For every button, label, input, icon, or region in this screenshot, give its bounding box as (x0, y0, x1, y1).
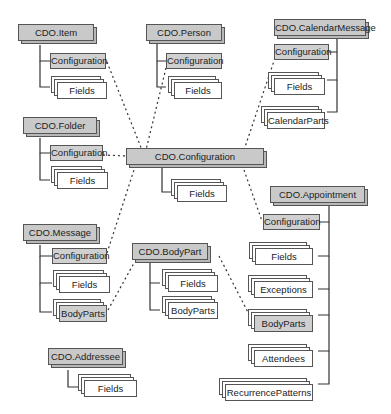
cdo-addressee-fields-collection[interactable]: Fields (84, 380, 137, 397)
cdo-calendarmessage-fields-collection[interactable]: Fields (274, 78, 325, 95)
cdo-folder-fields-collection[interactable]: Fields (57, 172, 108, 189)
cdo-message-fields-collection[interactable]: Fields (59, 276, 110, 293)
cdo-appointment-recurrencepatterns-collection[interactable]: RecurrencePatterns (225, 384, 313, 401)
cdo-person-configuration-interface[interactable]: Configuration (166, 53, 222, 69)
cdo-bodypart-bodyparts-collection[interactable]: BodyParts (168, 302, 218, 319)
cdo-message-configuration-interface[interactable]: Configuration (52, 248, 107, 264)
cdo-item-object[interactable]: CDO.Item (18, 24, 94, 41)
cdo-addressee-object[interactable]: CDO.Addressee (48, 348, 123, 365)
cdo-message-bodyparts-collection[interactable]: BodyParts (59, 305, 107, 322)
cdo-bodypart-object[interactable]: CDO.BodyPart (132, 243, 208, 260)
cdo-appointment-bodyparts-collection[interactable]: BodyParts (254, 315, 313, 332)
cdo-appointment-attendees-collection[interactable]: Attendees (254, 350, 313, 367)
cdo-configuration-fields-collection[interactable]: Fields (177, 185, 227, 202)
cdo-appointment-object[interactable]: CDO.Appointment (270, 186, 365, 203)
cdo-calendarmessage-calendarparts-collection[interactable]: CalendarParts (267, 112, 325, 129)
cdo-object-model-diagram: CDO.Item Configuration Fields CDO.Person… (0, 0, 391, 414)
cdo-folder-object[interactable]: CDO.Folder (23, 117, 97, 134)
cdo-calendarmessage-configuration-interface[interactable]: Configuration (274, 44, 329, 60)
cdo-appointment-exceptions-collection[interactable]: Exceptions (254, 281, 313, 298)
cdo-item-configuration-interface[interactable]: Configuration (50, 53, 106, 69)
cdo-bodypart-fields-collection[interactable]: Fields (168, 275, 218, 292)
cdo-message-object[interactable]: CDO.Message (23, 224, 97, 241)
cdo-item-fields-collection[interactable]: Fields (57, 82, 107, 99)
cdo-calendarmessage-object[interactable]: CDO.CalendarMessage (274, 19, 366, 36)
cdo-appointment-fields-collection[interactable]: Fields (255, 248, 313, 265)
cdo-appointment-configuration-interface[interactable]: Configuration (263, 214, 320, 230)
cdo-person-object[interactable]: CDO.Person (146, 24, 222, 41)
cdo-configuration-object[interactable]: CDO.Configuration (126, 148, 264, 165)
cdo-person-fields-collection[interactable]: Fields (174, 82, 222, 99)
cdo-folder-configuration-interface[interactable]: Configuration (50, 145, 103, 161)
